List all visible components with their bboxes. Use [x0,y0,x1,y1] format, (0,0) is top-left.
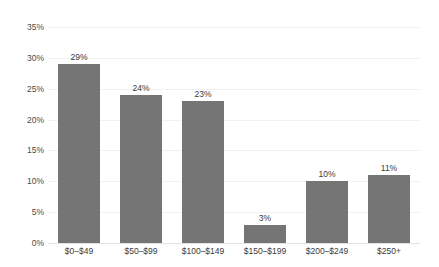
y-axis: 35%30%25%20%15%10%5%0% [0,27,44,243]
chart-title [48,0,420,3]
bar-value-label: 24% [110,83,172,93]
bar[interactable] [368,175,410,243]
x-axis: $0–$49$50–$99$100–$149$150–$199$200–$249… [48,246,420,264]
bar-value-label: 3% [234,213,296,223]
bar-group: 11% [358,27,420,243]
y-axis-tick-label: 10% [4,176,44,186]
y-axis-tick-label: 35% [4,22,44,32]
bar-value-label: 10% [296,169,358,179]
bar-value-label: 11% [358,163,420,173]
bar-group: 24% [110,27,172,243]
bar-series: 29%24%23%3%10%11% [48,27,420,243]
x-axis-tick-label: $250+ [358,246,420,256]
bar[interactable] [306,181,348,243]
x-axis-tick-label: $200–$249 [296,246,358,256]
y-axis-tick-label: 15% [4,145,44,155]
bar-value-label: 23% [172,89,234,99]
bar-group: 3% [234,27,296,243]
y-axis-tick-label: 0% [4,238,44,248]
y-axis-tick-label: 30% [4,53,44,63]
axis-baseline [48,243,420,244]
bar-group: 23% [172,27,234,243]
bar[interactable] [182,101,224,243]
x-axis-tick-label: $100–$149 [172,246,234,256]
y-axis-tick-label: 5% [4,207,44,217]
bar-group: 29% [48,27,110,243]
x-axis-tick-label: $150–$199 [234,246,296,256]
y-axis-tick-label: 25% [4,84,44,94]
y-axis-tick-label: 20% [4,115,44,125]
bar[interactable] [120,95,162,243]
bar[interactable] [244,225,286,244]
x-axis-tick-label: $0–$49 [48,246,110,256]
bar[interactable] [58,64,100,243]
bar-chart: 35%30%25%20%15%10%5%0% 29%24%23%3%10%11%… [0,0,439,267]
bar-value-label: 29% [48,52,110,62]
bar-group: 10% [296,27,358,243]
x-axis-tick-label: $50–$99 [110,246,172,256]
